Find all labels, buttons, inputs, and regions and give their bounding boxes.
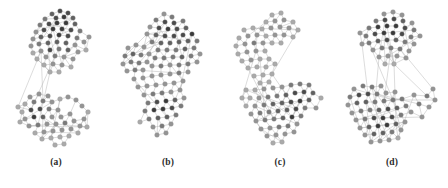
graph-node: [291, 20, 296, 25]
graph-node: [431, 87, 436, 92]
graph-node: [384, 91, 389, 96]
graph-node: [66, 48, 71, 53]
graph-node: [58, 97, 63, 102]
graph-node: [62, 55, 67, 60]
graph-node: [145, 84, 150, 89]
graph-node: [45, 122, 50, 127]
graph-node: [273, 33, 278, 38]
graph-node: [154, 33, 159, 38]
graph-node: [302, 90, 307, 95]
graph-node: [138, 120, 143, 125]
graph-node: [152, 108, 157, 113]
graph-node: [182, 96, 187, 101]
graph-node: [403, 26, 408, 31]
graph-node: [76, 131, 81, 136]
graph-node: [73, 43, 78, 48]
graph-node: [395, 106, 400, 111]
graph-node: [54, 16, 59, 21]
graph-node: [390, 130, 395, 135]
graph-node: [164, 99, 169, 104]
graph-node: [29, 108, 34, 113]
graph-node: [392, 17, 397, 22]
graph-node: [270, 72, 275, 77]
graph-node: [16, 105, 21, 110]
graph-node: [168, 63, 173, 68]
graph-node: [386, 54, 391, 59]
graph-node: [42, 28, 47, 33]
graph-node: [43, 17, 48, 22]
graph-node: [150, 64, 155, 69]
graph-node: [398, 47, 403, 52]
graph-node: [271, 141, 276, 146]
graph-node: [371, 48, 376, 53]
graph-node: [154, 18, 159, 23]
graph-node: [20, 110, 25, 115]
graph-node: [374, 19, 379, 24]
graph-node: [74, 98, 79, 103]
graph-node: [265, 134, 270, 139]
graph-node: [54, 122, 59, 127]
graph-node: [400, 13, 405, 18]
graph-node: [307, 83, 312, 88]
graph-node: [163, 34, 168, 39]
graph-node: [358, 126, 363, 131]
graph-node: [266, 95, 271, 100]
graph-edge: [45, 18, 73, 19]
graph-node: [132, 77, 137, 82]
graph-node: [354, 118, 359, 123]
graph-node: [363, 117, 368, 122]
graph-node: [292, 130, 297, 135]
graph-node: [160, 91, 165, 96]
graph-node: [278, 25, 283, 30]
graph-node: [383, 62, 388, 67]
graph-node: [85, 125, 90, 130]
graph-node: [146, 101, 151, 106]
graph-node: [137, 61, 142, 66]
graph-node: [162, 12, 167, 17]
graph-node: [246, 34, 251, 39]
graph-node: [163, 20, 168, 25]
graph-node: [274, 133, 279, 138]
graph-node: [295, 122, 300, 127]
graph-node: [237, 36, 242, 41]
graph-node: [179, 104, 184, 109]
graph-node: [150, 40, 155, 45]
graph-node: [142, 93, 147, 98]
graph-node: [262, 103, 267, 108]
graph-node: [62, 15, 67, 20]
graph-node: [273, 62, 278, 67]
graph-node: [160, 124, 165, 129]
graph-node: [358, 31, 363, 36]
graph-node: [242, 28, 247, 33]
graph-node: [134, 43, 139, 48]
graph-node: [143, 109, 148, 114]
graph-node: [246, 66, 251, 71]
graph-node: [252, 41, 257, 46]
graph-node: [364, 34, 369, 39]
graph-node: [55, 40, 60, 45]
graph-node: [311, 91, 316, 96]
graph-node: [53, 54, 58, 59]
graph-node: [272, 117, 277, 122]
graph-edge: [400, 49, 433, 89]
graph-node: [136, 85, 141, 90]
graph-node: [57, 33, 62, 38]
graph-node: [32, 115, 37, 120]
graph-node: [48, 34, 53, 39]
graph-node: [78, 29, 83, 34]
panel-d: (d): [336, 0, 448, 188]
graph-node: [50, 100, 55, 105]
graph-node: [277, 125, 282, 130]
graph-node: [285, 108, 290, 113]
graph-node: [298, 99, 303, 104]
graph-node: [28, 95, 33, 100]
graph-node: [282, 18, 287, 23]
graph-node: [62, 142, 67, 147]
graph-node: [50, 115, 55, 120]
graph-node: [303, 106, 308, 111]
graph-node: [409, 110, 414, 115]
graph-node: [23, 102, 28, 107]
graph-node: [51, 27, 56, 32]
graph-node: [164, 131, 169, 136]
graph-node: [394, 24, 399, 29]
